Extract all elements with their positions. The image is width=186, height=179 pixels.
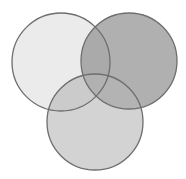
venn-diagram: [0, 0, 186, 179]
